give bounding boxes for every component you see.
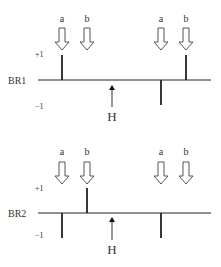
arrow-label-a: a [159, 13, 164, 24]
arrow-label-b: b [184, 146, 189, 157]
down-arrow-icon [55, 28, 69, 50]
panel-br2: a b a b +1 −1 BR2 H [8, 146, 211, 257]
arrow-label-a: a [60, 146, 65, 157]
down-arrow-icon [154, 28, 168, 50]
down-arrow-icon [179, 28, 193, 50]
plus-one-label: +1 [35, 50, 44, 59]
arrow-label-a: a [60, 13, 65, 24]
down-arrow-icon [80, 162, 94, 184]
diagram-canvas: a b a b +1 −1 BR1 H a b a b +1 [0, 0, 221, 267]
up-arrow-icon [109, 217, 115, 222]
hollow-down-arrows [55, 28, 193, 50]
marker-label-h: H [107, 109, 116, 124]
hollow-down-arrows [55, 162, 193, 184]
marker-label-h: H [107, 242, 116, 257]
minus-one-label: −1 [35, 102, 44, 111]
up-arrow-icon [109, 85, 115, 90]
plus-one-label: +1 [35, 184, 44, 193]
minus-one-label: −1 [35, 231, 44, 240]
down-arrow-icon [55, 162, 69, 184]
arrow-label-a: a [159, 146, 164, 157]
arrow-label-b: b [85, 13, 90, 24]
down-arrow-icon [179, 162, 193, 184]
arrow-label-b: b [184, 13, 189, 24]
row-label-br2: BR2 [8, 208, 26, 219]
row-label-br1: BR1 [8, 75, 26, 86]
arrow-label-b: b [85, 146, 90, 157]
down-arrow-icon [80, 28, 94, 50]
down-arrow-icon [154, 162, 168, 184]
panel-br1: a b a b +1 −1 BR1 H [8, 13, 211, 124]
